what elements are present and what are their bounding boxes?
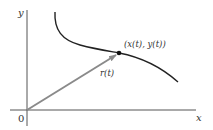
- x-axis-label: x: [196, 112, 202, 123]
- vector-label: r(t): [100, 68, 114, 78]
- origin-label: 0: [18, 113, 24, 124]
- position-vector-arrow: [27, 55, 116, 110]
- y-axis-label: y: [17, 7, 24, 18]
- point-label: (x(t), y(t)): [124, 39, 166, 49]
- curve-point: [117, 51, 122, 56]
- diagram-canvas: y x 0 (x(t), y(t)) r(t): [0, 0, 213, 130]
